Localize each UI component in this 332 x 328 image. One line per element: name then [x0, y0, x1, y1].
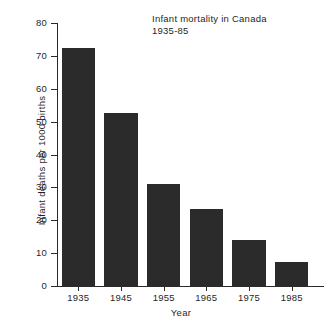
bar [62, 48, 95, 286]
y-tick-label: 50 [36, 116, 47, 127]
x-axis-label: Year [0, 307, 332, 318]
bar [275, 262, 308, 286]
bar [147, 184, 180, 286]
y-tick-label: 0 [42, 280, 47, 291]
x-tick-label: 1985 [270, 292, 313, 303]
x-tick-label: 1965 [185, 292, 228, 303]
x-tick-label: 1945 [100, 292, 143, 303]
x-tick [249, 287, 250, 291]
bar [190, 209, 223, 286]
y-tick-label: 20 [36, 214, 47, 225]
y-tick-label: 30 [36, 181, 47, 192]
y-tick-label: 70 [36, 50, 47, 61]
y-tick-label: 40 [36, 149, 47, 160]
x-tick [292, 287, 293, 291]
x-tick-label: 1935 [57, 292, 100, 303]
x-axis-line [57, 286, 324, 287]
y-tick-label: 10 [36, 247, 47, 258]
x-tick-label: 1975 [228, 292, 271, 303]
x-tick [78, 287, 79, 291]
bar [232, 240, 265, 286]
bar-chart: Infant mortality in Canada 1935-85 Infan… [0, 0, 332, 328]
y-tick-label: 80 [36, 17, 47, 28]
plot-area [57, 23, 313, 286]
x-tick [121, 287, 122, 291]
x-tick [164, 287, 165, 291]
y-tick-label: 60 [36, 83, 47, 94]
x-tick-label: 1955 [142, 292, 185, 303]
bar [104, 113, 137, 286]
y-tick: 0 [51, 286, 58, 287]
x-tick [206, 287, 207, 291]
